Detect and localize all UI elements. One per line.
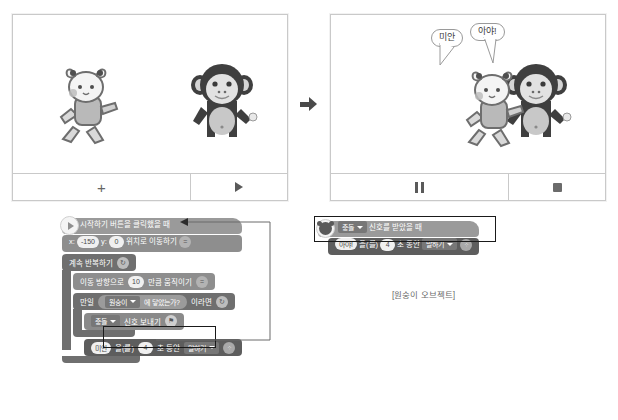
signal-value: 충돌 [95, 316, 107, 326]
block-label-prefix: 만일 [80, 296, 94, 307]
say-row: 미안 을(를) 4 초 동안 말하기 ⁘ [84, 337, 242, 357]
seconds-input[interactable]: 4 [138, 342, 153, 354]
block-label-suffix: 만큼 움직이기 [148, 276, 192, 287]
target-value: 원숭이 [109, 297, 127, 307]
block-label-suffix: 이라면 [191, 296, 212, 307]
start-flag-icon [60, 216, 79, 235]
stage-screen-after[interactable]: 미안 아야! [331, 15, 605, 174]
start-button[interactable] [191, 174, 287, 200]
if-body: 충돌 신호 보내기 ⚑ [84, 310, 242, 330]
block-send-signal[interactable]: 충돌 신호 보내기 ⚑ [84, 313, 184, 330]
signal-badge: ⚑ [165, 315, 177, 327]
stage-panel-after: 미안 아야! [330, 14, 606, 201]
stage-panel-before: + [12, 14, 288, 201]
x-input[interactable]: -150 [77, 236, 99, 248]
chevron-down-icon [130, 300, 136, 303]
loop-footer [62, 356, 140, 363]
block-label-prefix: 이동 방향으로 [80, 276, 124, 287]
mid-label: 초 동안 [397, 240, 420, 249]
block-when-signal-received[interactable]: 충돌 신호를 받았을 때 [318, 221, 479, 237]
look-badge: ⁘ [460, 239, 472, 251]
condition-touching[interactable]: 원숭이 에 닿았는가? [98, 295, 187, 309]
block-label: 시작하기 버튼을 클릭했을 때 [80, 220, 170, 229]
stage-controls-before: + [13, 174, 287, 200]
script-stack-monkey: 충돌 신호를 받았을 때 아야! 을(를) 4 초 동안 말하기 ⁘ [318, 220, 479, 255]
cat-sprite[interactable] [459, 70, 531, 148]
stop-button[interactable] [509, 174, 605, 200]
message-input[interactable]: 미안 [91, 342, 111, 354]
seconds-input[interactable]: 4 [380, 239, 395, 251]
bubble-ouch-text: 아야! [478, 26, 497, 36]
particle-label: 을(를) [359, 240, 378, 249]
block-move-to-xy[interactable]: x: -150 y: 0 위치로 이동하기 = [62, 235, 242, 252]
y-input[interactable]: 0 [109, 236, 124, 248]
pause-icon [415, 182, 424, 193]
loop-body: 이동 방향으로 10 만큼 움직이기 = 만일 원숭이 에 닿았는가? [73, 271, 242, 356]
script-stack-cat: 시작하기 버튼을 클릭했을 때 x: -150 y: 0 위치로 이동하기 = … [62, 217, 242, 363]
loop-badge: ↻ [117, 257, 129, 269]
x-label: x: [69, 237, 75, 246]
bubble-sorry-text: 미안 [439, 32, 455, 42]
say-action-dropdown[interactable]: 말하기 [422, 238, 457, 250]
bubble-ouch: 아야! [470, 23, 505, 41]
block-say-for-seconds[interactable]: 미안 을(를) 4 초 동안 말하기 ⁘ [84, 339, 242, 356]
stop-icon [553, 183, 562, 192]
chevron-down-icon [110, 320, 116, 323]
monkey-object-icon [316, 219, 335, 238]
caption-monkey-object: [원숭이 오브젝트] [392, 288, 455, 300]
stage-controls-after [331, 174, 605, 200]
if-arm [73, 309, 82, 333]
block-label: 위치로 이동하기 [126, 237, 177, 246]
block-label: 계속 반복하기 [69, 257, 113, 268]
signal-value: 충돌 [342, 222, 354, 232]
mid-label: 초 동안 [157, 342, 180, 353]
chevron-down-icon [357, 226, 363, 229]
block-label: 신호를 받았을 때 [369, 223, 422, 232]
say-action-dropdown[interactable]: 말하기 [184, 342, 219, 354]
y-label: y: [101, 237, 107, 246]
pause-button[interactable] [331, 174, 509, 200]
monkey-sprite[interactable] [185, 63, 259, 145]
steps-input[interactable]: 10 [128, 276, 144, 288]
equals-badge: = [179, 236, 191, 248]
look-badge: ⁘ [223, 342, 235, 354]
bubble-sorry: 미안 [431, 29, 463, 47]
block-label: 신호 보내기 [124, 316, 161, 327]
target-dropdown[interactable]: 원숭이 [105, 296, 140, 308]
signal-dropdown[interactable]: 충돌 [338, 221, 367, 233]
block-when-start-clicked[interactable]: 시작하기 버튼을 클릭했을 때 [62, 218, 242, 234]
action-value: 말하기 [188, 343, 206, 353]
repeat-forever-header[interactable]: 계속 반복하기 ↻ [62, 254, 136, 271]
equals-badge: = [196, 276, 208, 288]
stage-screen-before[interactable] [13, 15, 287, 174]
chevron-down-icon [447, 243, 453, 246]
cat-sprite[interactable] [53, 67, 125, 145]
condition-label: 에 닿았는가? [144, 297, 180, 307]
if-header[interactable]: 만일 원숭이 에 닿았는가? 이라면 ↻ [73, 293, 235, 310]
play-icon [235, 182, 243, 192]
if-footer [73, 330, 135, 337]
add-object-button[interactable]: + [13, 174, 191, 200]
block-move-steps[interactable]: 이동 방향으로 10 만큼 움직이기 = [73, 273, 215, 290]
block-say-for-seconds[interactable]: 아야! 을(를) 4 초 동안 말하기 ⁘ [328, 238, 479, 255]
chevron-down-icon [209, 346, 215, 349]
block-if[interactable]: 만일 원숭이 에 닿았는가? 이라면 ↻ 충돌 [73, 291, 242, 337]
signal-dropdown[interactable]: 충돌 [91, 315, 120, 327]
particle-label: 을(를) [115, 342, 134, 353]
loop-arm [62, 270, 71, 350]
if-badge: ↻ [216, 296, 228, 308]
message-input[interactable]: 아야! [335, 238, 357, 250]
plus-icon: + [97, 180, 106, 195]
block-repeat-forever[interactable]: 계속 반복하기 ↻ 이동 방향으로 10 만큼 움직이기 = 만일 원숭이 [62, 252, 242, 363]
right-arrow-icon [300, 96, 320, 112]
action-value: 말하기 [426, 239, 444, 249]
